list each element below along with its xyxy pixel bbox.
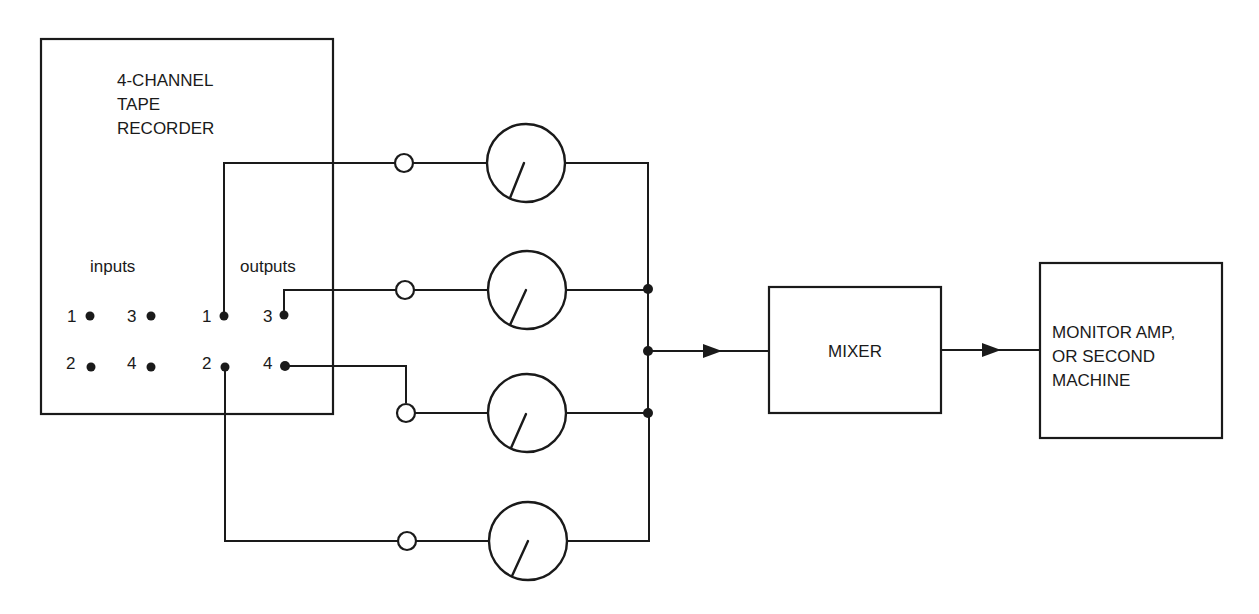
tape-recorder: 4-CHANNEL TAPE RECORDER inputs outputs 1… xyxy=(41,39,333,414)
monitor-line-1: MONITOR AMP, xyxy=(1052,323,1175,342)
mixer: MIXER xyxy=(769,287,941,413)
jack-4-icon xyxy=(398,532,416,550)
output-pin-1-label: 1 xyxy=(202,307,211,326)
input-pin-4-dot xyxy=(147,363,156,372)
wire-output-3 xyxy=(284,290,395,315)
arrow-right-icon xyxy=(982,343,1001,357)
arrow-right-icon xyxy=(703,344,722,358)
wire-output-2 xyxy=(225,367,398,541)
junction-dot-3 xyxy=(643,408,653,418)
input-pin-1: 1 xyxy=(67,307,95,326)
jack-3-icon xyxy=(397,404,415,422)
output-pin-2-label: 2 xyxy=(202,354,211,373)
wire-output-4 xyxy=(285,366,406,403)
input-pin-3-dot xyxy=(147,312,156,321)
output-pin-4: 4 xyxy=(263,354,290,373)
channel-3 xyxy=(397,374,648,452)
input-pin-4-label: 4 xyxy=(127,354,136,373)
fader-knob-3[interactable] xyxy=(488,374,566,452)
mixer-label: MIXER xyxy=(828,342,882,361)
input-pin-2-dot xyxy=(87,363,96,372)
recorder-title-line-3: RECORDER xyxy=(117,119,214,138)
jack-1-icon xyxy=(395,154,413,172)
wire-fader-1-to-bus xyxy=(565,163,648,290)
monitor-line-2: OR SECOND xyxy=(1052,347,1155,366)
recorder-title-line-1: 4-CHANNEL xyxy=(117,71,213,90)
jack-2-icon xyxy=(396,281,414,299)
input-pin-3-label: 3 xyxy=(127,307,136,326)
outputs-label: outputs xyxy=(240,257,296,276)
input-pin-1-dot xyxy=(86,312,95,321)
output-wires xyxy=(224,163,406,541)
input-pin-2-label: 2 xyxy=(66,354,75,373)
tape-recorder-box xyxy=(41,39,333,414)
monitor-line-3: MACHINE xyxy=(1052,371,1130,390)
wire-fader-4-to-bus xyxy=(567,413,649,541)
fader-knob-1[interactable] xyxy=(487,124,565,202)
inputs-label: inputs xyxy=(90,257,135,276)
output-pin-4-label: 4 xyxy=(263,354,272,373)
input-pin-4: 4 xyxy=(127,354,156,373)
signal-flow-diagram: 4-CHANNEL TAPE RECORDER inputs outputs 1… xyxy=(0,0,1259,614)
input-pin-1-label: 1 xyxy=(67,307,76,326)
input-pin-3: 3 xyxy=(127,307,156,326)
wire-output-1 xyxy=(224,163,395,316)
monitor-amp: MONITOR AMP, OR SECOND MACHINE xyxy=(1040,263,1222,438)
channel-2 xyxy=(396,251,648,329)
output-pin-3-label: 3 xyxy=(263,307,272,326)
summing-bus xyxy=(643,284,769,418)
junction-dot-1 xyxy=(643,284,653,294)
mixer-output xyxy=(941,343,1040,357)
input-pin-2: 2 xyxy=(66,354,96,373)
recorder-title-line-2: TAPE xyxy=(117,95,160,114)
